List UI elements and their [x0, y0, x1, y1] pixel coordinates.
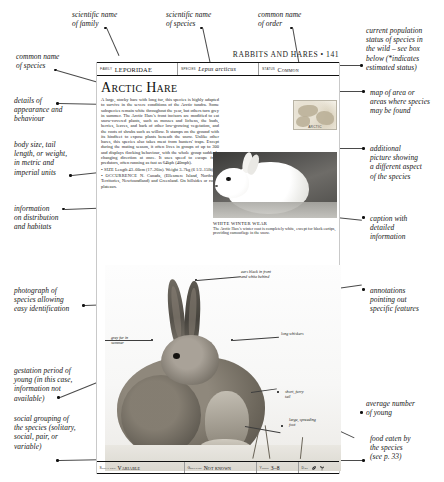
species-article: Arctic Hare A large, stocky hare with lo… — [101, 80, 337, 189]
bullet-additional-picture — [362, 147, 365, 150]
photo-bullet-foot — [281, 425, 283, 427]
header-key-status: Status — [262, 67, 275, 71]
annotation-body-size-units: body size, tail length, or weight, in me… — [14, 140, 94, 177]
data-field-gestation: Gestation Not known — [185, 462, 257, 473]
data-key-gestation: Gestation — [188, 466, 202, 470]
annotation-current-population-status: current population status of species in … — [366, 26, 444, 72]
fact-occurrence: • OCCURRENCE N. Canada, (Ellesmere Islan… — [101, 173, 219, 188]
hare-illustration — [113, 279, 285, 467]
photo-bullet-tail — [277, 391, 279, 393]
bullet-map-of-area — [362, 90, 365, 93]
book-page: RABBITS AND HARES • 141 Family LEPORIDAE… — [96, 62, 340, 474]
sprout-icon — [319, 465, 325, 471]
annotation-social-grouping: social grouping of the species (solitary… — [14, 414, 100, 451]
hare-head — [161, 335, 219, 385]
annotation-food-eaten: food eaten by the species (see p. 33) — [370, 434, 444, 462]
annotated-page-figure: scientific name of family scientific nam… — [0, 0, 444, 482]
photo-annotation-short-furry-tail: short, furry tail — [285, 389, 333, 399]
annotation-scientific-name-of-species: scientific name of species — [166, 10, 246, 28]
page-folio: RABBITS AND HARES • 141 — [233, 50, 339, 59]
leaf-icon — [311, 465, 317, 471]
fact-size: • SIZE Length 43–66cm (17–26in). Weight … — [101, 167, 219, 172]
diet-icon-group — [311, 465, 325, 471]
data-key-social-unit: Social unit — [100, 466, 116, 470]
article-body: A large, stocky hare with long fur, this… — [101, 97, 219, 189]
fact-bullet-size: • — [101, 167, 103, 172]
hare-ear-inner-left — [169, 286, 182, 338]
annotation-average-number-young: average number of young — [366, 399, 444, 417]
bullet-average-number-young — [360, 411, 363, 414]
secondary-photo-white-hare — [213, 152, 337, 218]
header-field-family: Family LEPORIDAE — [97, 63, 178, 75]
leader-additional-picture — [340, 148, 362, 149]
header-key-species: Species — [181, 67, 196, 71]
photo-caption: WHITE WINTER WEAR The Arctic Hare's wint… — [213, 221, 337, 236]
photo-annotation-long-whiskers: long whiskers — [281, 331, 333, 336]
fact-label-size: SIZE — [104, 167, 114, 172]
header-value-species: Lepus arcticus — [198, 66, 236, 72]
annotation-details-of-appearance: details of appearance and behaviour — [14, 96, 90, 124]
header-value-status: Common — [278, 66, 299, 73]
map-label: ARCTIC — [294, 125, 336, 129]
photo-bullet-grey-fur — [151, 339, 153, 341]
annotation-common-name-of-order: common name of order — [258, 10, 338, 28]
bullet-annotations-features — [362, 288, 365, 291]
main-photograph-arctic-hare: ears black in front and white behind lon… — [105, 265, 341, 471]
data-value-social-unit: Variable — [118, 465, 141, 471]
annotation-map-of-area: map of area or areas where species may b… — [370, 88, 444, 116]
bullet-current-population-status — [360, 64, 363, 67]
fact-text-size: Length 43–66cm (17–26in). Weight 3–7kg (… — [115, 167, 214, 172]
hare-ear-inner-right — [187, 288, 197, 340]
photo-annotation-large-spreading-foot: large, spreading foot — [289, 417, 337, 427]
bullet-caption-with-detail — [362, 216, 365, 219]
leader-common-name-of-species — [57, 70, 101, 83]
hare-eye — [173, 353, 180, 359]
photo-annotation-ears-black-front: ears black in front and white behind — [241, 269, 301, 279]
annotation-additional-picture: additional picture showing a different a… — [370, 144, 444, 181]
header-field-status: Status Common — [259, 63, 339, 75]
species-data-band: Social unit Variable Gestation Not known… — [97, 461, 339, 474]
photo-leader-grey-fur — [105, 340, 151, 341]
bullet-food-eaten — [362, 459, 365, 462]
header-value-family: LEPORIDAE — [115, 66, 152, 73]
data-key-young: Young — [260, 466, 269, 470]
leader-social-grouping — [59, 459, 99, 460]
annotation-common-name-of-species: common name of species — [16, 52, 88, 70]
article-paragraph: A large, stocky hare with long fur, this… — [101, 97, 219, 165]
header-field-species: Species Lepus arcticus — [178, 63, 259, 75]
leader-common-name-of-order — [293, 28, 300, 66]
data-field-diet: Diet — [299, 462, 339, 473]
annotation-photograph-of-species: photograph of species allowing easy iden… — [14, 286, 98, 314]
white-hare-snow-foreground — [213, 202, 337, 218]
page-title: Arctic Hare — [101, 80, 337, 95]
map-landmass-east — [316, 111, 334, 125]
distribution-map: ARCTIC — [293, 100, 337, 130]
data-value-gestation: Not known — [204, 465, 231, 471]
hare-haunch — [121, 375, 201, 455]
data-value-young: 3–8 — [271, 465, 280, 471]
taxonomy-header-band: Family LEPORIDAE Species Lepus arcticus … — [97, 62, 339, 76]
leader-map-of-area — [340, 91, 362, 92]
annotation-annotations-features: annotations pointing out specific featur… — [370, 286, 444, 314]
annotation-caption-with-detail: caption with detailed information — [370, 214, 444, 242]
data-field-young: Young 3–8 — [257, 462, 299, 473]
caption-text: The Arctic Hare's winter coat is complet… — [213, 227, 337, 237]
data-field-social-unit: Social unit Variable — [97, 462, 185, 473]
annotation-scientific-name-of-family: scientific name of family — [72, 10, 152, 28]
header-key-family: Family — [100, 67, 112, 71]
leader-scientific-name-of-family — [107, 28, 120, 56]
white-hare-head — [215, 168, 249, 198]
data-key-diet: Diet — [302, 466, 308, 470]
